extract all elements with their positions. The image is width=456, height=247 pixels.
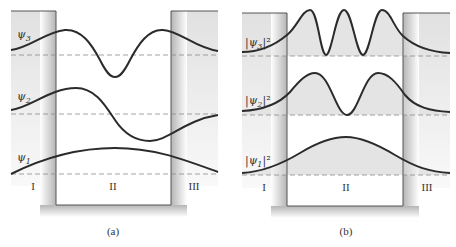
caption-b: (b)	[340, 225, 353, 238]
region-label-II-b: II	[342, 181, 350, 193]
region-label-III-b: III	[422, 181, 433, 193]
caption-a: (a)	[107, 225, 120, 238]
region-label-I-b: I	[262, 181, 266, 193]
region-label-II-a: II	[109, 180, 117, 192]
panel-b: |ψ3|² |ψ2|² |ψ1|² I II III (b)	[242, 10, 450, 238]
region-label-III-a: III	[189, 180, 200, 192]
panel-a: ψ3 ψ2 ψ1 I II III (a)	[11, 11, 218, 238]
region-label-I-a: I	[31, 180, 35, 192]
finite-well-figure: ψ3 ψ2 ψ1 I II III (a)	[0, 0, 456, 247]
